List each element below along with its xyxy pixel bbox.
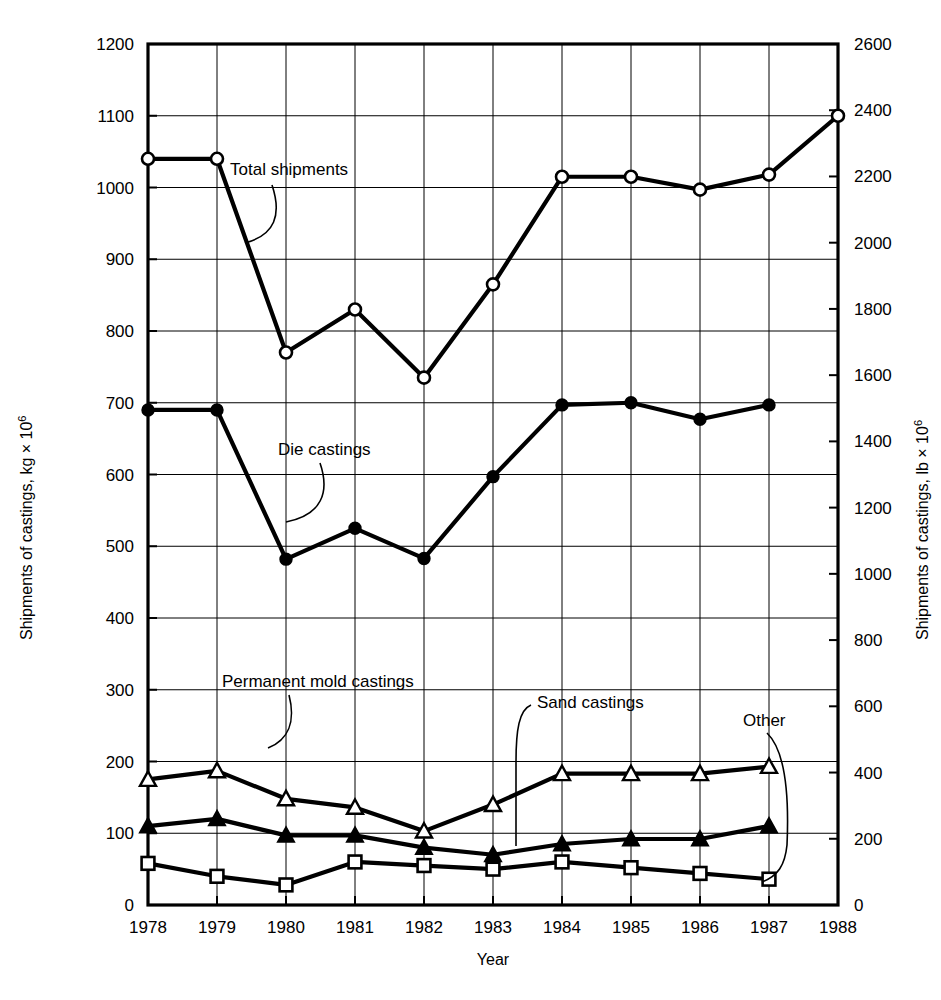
right-tick-label: 400 [854, 764, 882, 783]
svg-text:Shipments of castings, kg × 10: Shipments of castings, kg × 106 [16, 416, 35, 640]
left-tick-label: 300 [106, 681, 134, 700]
data-point-marker-open-circle [763, 169, 775, 181]
data-point-marker-open-square [280, 879, 293, 892]
x-tick-label: 1988 [819, 918, 857, 937]
right-tick-label: 1400 [854, 432, 892, 451]
data-point-marker-open-square [418, 859, 431, 872]
left-tick-label: 900 [106, 250, 134, 269]
annotation-label: Other [743, 711, 786, 730]
right-tick-label: 600 [854, 697, 882, 716]
right-tick-label: 2000 [854, 234, 892, 253]
left-tick-label: 400 [106, 609, 134, 628]
casting-shipments-line-chart: 0100200300400500600700800900100011001200… [0, 0, 941, 1000]
right-axis-title-text: Shipments of castings, lb × 10 [914, 426, 931, 640]
data-point-marker-open-circle [418, 372, 430, 384]
data-point-marker-open-square [142, 857, 155, 870]
left-tick-label: 800 [106, 322, 134, 341]
x-tick-label: 1981 [336, 918, 374, 937]
x-tick-label: 1987 [750, 918, 788, 937]
data-point-marker-filled-circle [211, 404, 222, 415]
data-point-marker-filled-circle [349, 523, 360, 534]
right-tick-label: 1600 [854, 366, 892, 385]
right-tick-label: 200 [854, 830, 882, 849]
annotation-label: Die castings [278, 440, 371, 459]
data-point-marker-filled-circle [142, 404, 153, 415]
data-point-marker-filled-circle [418, 553, 429, 564]
data-point-marker-open-square [694, 867, 707, 880]
left-tick-label: 500 [106, 537, 134, 556]
annotation-label: Total shipments [230, 160, 348, 179]
svg-text:Shipments of castings, lb × 10: Shipments of castings, lb × 106 [912, 420, 931, 640]
x-tick-label: 1983 [474, 918, 512, 937]
data-point-marker-open-circle [280, 347, 292, 359]
left-axis-title: Shipments of castings, kg × 106 [16, 416, 35, 640]
left-tick-label: 1200 [96, 35, 134, 54]
x-tick-label: 1984 [543, 918, 581, 937]
left-tick-label: 1000 [96, 179, 134, 198]
x-tick-label: 1978 [129, 918, 167, 937]
right-axis-title: Shipments of castings, lb × 106 [912, 420, 931, 640]
left-axis-title-exponent: 6 [16, 416, 28, 422]
x-tick-label: 1982 [405, 918, 443, 937]
right-tick-label: 2400 [854, 101, 892, 120]
data-point-marker-open-circle [211, 153, 223, 165]
data-point-marker-open-circle [832, 110, 844, 122]
data-point-marker-open-circle [694, 184, 706, 196]
right-tick-label: 1800 [854, 300, 892, 319]
right-tick-label: 800 [854, 631, 882, 650]
right-tick-label: 1000 [854, 565, 892, 584]
x-tick-label: 1985 [612, 918, 650, 937]
data-point-marker-filled-circle [694, 414, 705, 425]
data-point-marker-open-circle [349, 303, 361, 315]
right-tick-label: 1200 [854, 499, 892, 518]
left-axis-title-text: Shipments of castings, kg × 10 [18, 422, 35, 640]
data-point-marker-open-circle [142, 153, 154, 165]
annotation-label: Permanent mold castings [222, 672, 414, 691]
x-tick-label: 1980 [267, 918, 305, 937]
data-point-marker-filled-circle [625, 397, 636, 408]
data-point-marker-open-square [349, 856, 362, 869]
x-axis-title: Year [477, 951, 510, 968]
data-point-marker-filled-circle [487, 471, 498, 482]
data-point-marker-filled-circle [280, 554, 291, 565]
data-point-marker-filled-circle [556, 399, 567, 410]
data-point-marker-open-square [625, 861, 638, 874]
data-point-marker-open-square [487, 863, 500, 876]
x-tick-label: 1979 [198, 918, 236, 937]
left-tick-label: 1100 [97, 107, 134, 126]
annotation-label: Sand castings [537, 693, 644, 712]
x-tick-label: 1986 [681, 918, 719, 937]
right-tick-label: 2200 [854, 167, 892, 186]
left-tick-label: 600 [106, 466, 134, 485]
left-tick-label: 100 [106, 824, 134, 843]
chart-figure: 0100200300400500600700800900100011001200… [0, 0, 941, 1000]
left-tick-label: 200 [106, 753, 134, 772]
left-tick-label: 700 [106, 394, 134, 413]
data-point-marker-open-circle [487, 278, 499, 290]
right-axis-title-exponent: 6 [912, 420, 924, 426]
data-point-marker-open-square [211, 870, 224, 883]
right-tick-label: 2600 [854, 35, 892, 54]
right-tick-label: 0 [854, 896, 863, 915]
data-point-marker-filled-circle [763, 399, 774, 410]
left-tick-label: 0 [125, 896, 134, 915]
data-point-marker-open-circle [556, 171, 568, 183]
data-point-marker-open-square [556, 856, 569, 869]
data-point-marker-open-circle [625, 171, 637, 183]
